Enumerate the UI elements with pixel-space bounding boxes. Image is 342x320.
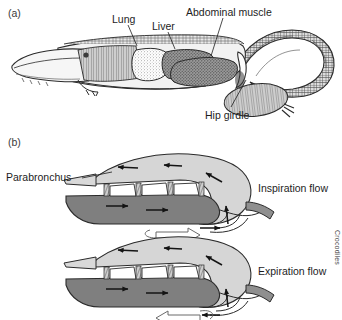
side-running-head: Crocodiles [334, 230, 341, 265]
inspiration-diagram [64, 154, 274, 242]
hip-girdle-label: Hip girdle [205, 110, 249, 121]
abdominal-muscle-label: Abdominal muscle [186, 7, 272, 18]
expiration-diagram [64, 237, 274, 320]
panel-a-tag: (a) [8, 8, 21, 19]
expiration-flow-label: Expiration flow [258, 266, 326, 277]
abdominal-muscle-organ [171, 58, 238, 87]
parabronchus-label: Parabronchus [6, 172, 71, 183]
lung-airflow-schematics [0, 130, 342, 320]
liver-label: Liver [152, 21, 175, 32]
inspiration-flow-label: Inspiration flow [258, 183, 328, 194]
lung-label: Lung [112, 14, 135, 25]
hollow-flow-arrow [156, 311, 200, 320]
panel-b-tag: (b) [8, 137, 21, 148]
